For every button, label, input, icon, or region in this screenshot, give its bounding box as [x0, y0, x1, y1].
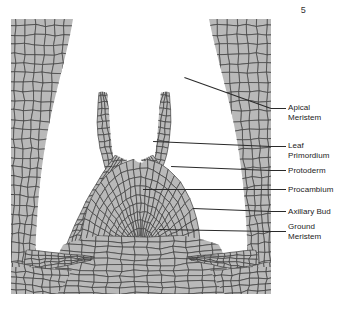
label-column: ApicalMeristemLeafPrimordiumProtodermPro… [271, 19, 348, 294]
label-ground-meristem: GroundMeristem [288, 222, 321, 241]
label-apical-meristem-line-2: Meristem [288, 113, 321, 123]
leader-line-procambium [271, 189, 286, 190]
label-apical-meristem: ApicalMeristem [288, 103, 321, 122]
leader-line-protoderm [271, 170, 286, 171]
label-leaf-primordium-line-2: Primordium [288, 151, 329, 161]
label-leaf-primordium-line-1: Leaf [288, 141, 329, 151]
leader-line-axillary-bud [271, 211, 286, 212]
label-protoderm-line-1: Protoderm [288, 166, 326, 176]
leader-line-apical-meristem [271, 108, 286, 109]
label-apical-meristem-line-1: Apical [288, 103, 321, 113]
label-procambium: Procambium [288, 185, 333, 195]
label-leaf-primordium: LeafPrimordium [288, 141, 329, 160]
label-axillary-bud-line-1: Axillary Bud [288, 207, 331, 217]
shoot-apex-figure [11, 19, 271, 294]
page-number: 5 [301, 5, 306, 15]
label-ground-meristem-line-1: Ground [288, 222, 321, 232]
leader-line-leaf-primordium [271, 146, 286, 147]
leader-line-in-procambium [143, 189, 271, 190]
tissue-diagram [11, 19, 271, 294]
label-protoderm: Protoderm [288, 166, 326, 176]
label-axillary-bud: Axillary Bud [288, 207, 331, 217]
leader-line-ground-meristem [271, 231, 286, 232]
label-procambium-line-1: Procambium [288, 185, 333, 195]
label-ground-meristem-line-2: Meristem [288, 232, 321, 242]
